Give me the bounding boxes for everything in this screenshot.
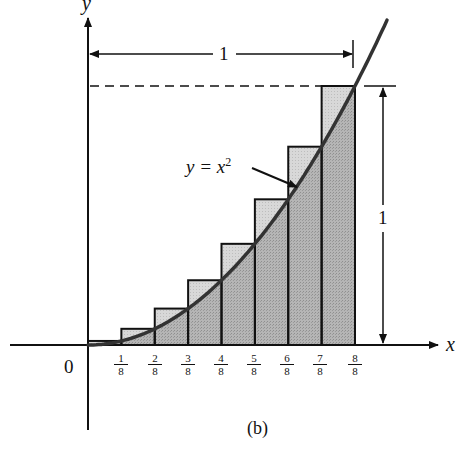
x-tick-label: 58 (247, 353, 261, 376)
tick-numerator: 5 (247, 353, 261, 365)
width-dimension-label: 1 (219, 43, 229, 65)
tick-denominator: 8 (214, 365, 228, 376)
tick-denominator: 8 (181, 365, 195, 376)
tick-numerator: 1 (114, 353, 128, 365)
x-tick-label: 38 (181, 353, 195, 376)
tick-numerator: 2 (148, 353, 162, 365)
x-tick-label: 18 (114, 353, 128, 376)
x-tick-label: 48 (214, 353, 228, 376)
tick-numerator: 4 (214, 353, 228, 365)
x-tick-label: 68 (280, 353, 294, 376)
tick-numerator: 8 (348, 353, 362, 365)
curve-label-exponent: 2 (225, 155, 231, 169)
x-axis-label: x (446, 333, 455, 356)
tick-numerator: 7 (313, 353, 327, 365)
tick-denominator: 8 (313, 365, 327, 376)
y-axis-label: y (82, 0, 91, 15)
tick-denominator: 8 (148, 365, 162, 376)
curve-label: y = x2 (186, 155, 231, 178)
x-tick-label: 88 (348, 353, 362, 376)
tick-numerator: 6 (280, 353, 294, 365)
tick-denominator: 8 (114, 365, 128, 376)
tick-denominator: 8 (247, 365, 261, 376)
origin-label: 0 (64, 356, 74, 378)
tick-denominator: 8 (348, 365, 362, 376)
curve-label-text: y = x (186, 156, 225, 177)
figure-caption: (b) (247, 418, 268, 439)
x-tick-label: 28 (148, 353, 162, 376)
height-dimension-label: 1 (378, 207, 388, 229)
x-tick-label: 78 (313, 353, 327, 376)
tick-numerator: 3 (181, 353, 195, 365)
riemann-sum-figure (0, 0, 460, 449)
tick-denominator: 8 (280, 365, 294, 376)
